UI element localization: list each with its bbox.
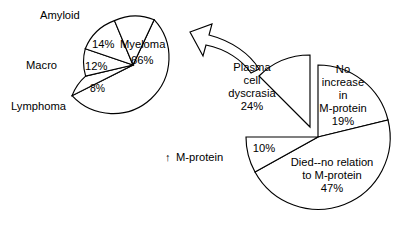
died-value: 47% [321, 182, 343, 194]
plasma-line-2: cell [244, 74, 261, 86]
noinc-line-1: No [336, 63, 350, 75]
legend-label: M-protein [176, 151, 223, 163]
legend: ↑ M-protein [165, 151, 223, 163]
label-myeloma: Myeloma [120, 38, 166, 50]
left-pie-chart: Amyloid Macro Lymphoma 14% 12% 8% Myelom… [11, 9, 169, 114]
noinc-line-4: M-protein [319, 102, 366, 114]
value-macro: 12% [85, 60, 107, 72]
plasma-line-1: Plasma [233, 61, 271, 73]
died-line-2: to M-protein [302, 169, 362, 181]
label-lymphoma: Lymphoma [11, 100, 67, 112]
up-arrow-icon: ↑ [165, 151, 171, 163]
label-macro: Macro [26, 59, 57, 71]
noinc-value: 19% [332, 115, 354, 127]
value-myeloma: 66% [131, 54, 153, 66]
plasma-line-3: dyscrasia [228, 87, 276, 99]
noinc-line-3: in [339, 89, 348, 101]
pie-slice-plasma-cell-dyscrasia[interactable]: Plasma cell dyscrasia 24% [228, 55, 310, 127]
plasma-value: 24% [241, 100, 263, 112]
mprotein-value: 10% [253, 142, 275, 154]
label-amyloid: Amyloid [40, 9, 80, 21]
value-lymphoma: 8% [90, 83, 105, 94]
pie-chart-figure: Amyloid Macro Lymphoma 14% 12% 8% Myelom… [0, 0, 412, 230]
value-amyloid: 14% [92, 38, 114, 50]
noinc-line-2: increase [322, 76, 364, 88]
died-line-1: Died--no relation [291, 156, 374, 168]
right-pie-chart: Plasma cell dyscrasia 24% No increase in… [228, 55, 390, 209]
